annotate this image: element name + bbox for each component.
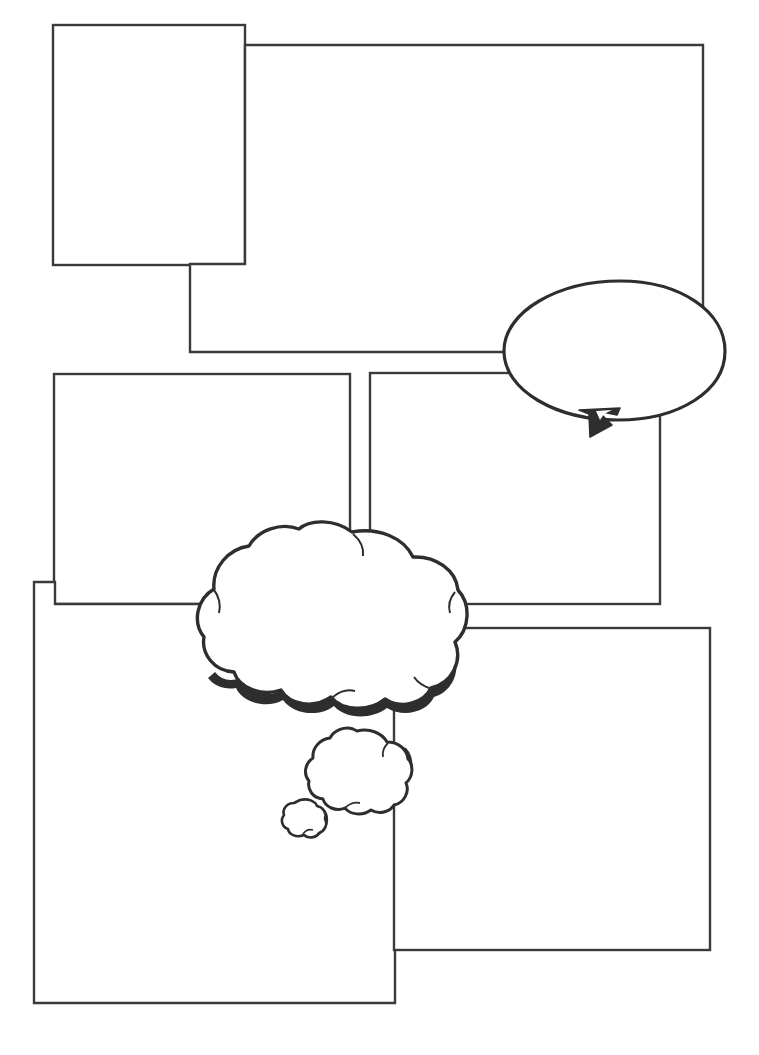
comic-canvas — [0, 0, 759, 1055]
panel-top-left[interactable] — [53, 25, 245, 265]
speech-balloon-body — [504, 281, 725, 420]
comic-page — [0, 0, 759, 1055]
